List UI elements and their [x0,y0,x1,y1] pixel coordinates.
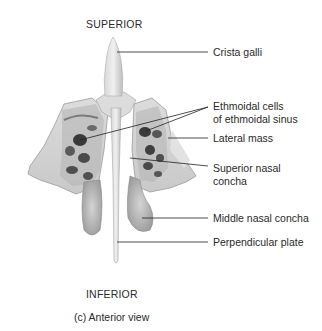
orientation-inferior: INFERIOR [86,288,138,300]
right-lateral-mass [132,98,196,192]
label-superior-nasal-concha-line2: concha [213,175,281,188]
label-perpendicular-plate: Perpendicular plate [213,236,303,249]
label-middle-nasal-concha: Middle nasal concha [213,212,309,225]
label-ethmoidal-cells-line1: Ethmoidal cells [213,100,298,113]
label-superior-nasal-concha-line1: Superior nasal [213,162,281,175]
left-middle-nasal-concha [82,180,102,235]
label-lateral-mass: Lateral mass [213,132,273,145]
label-ethmoidal-cells-line2: of ethmoidal sinus [213,113,298,126]
crista-galli-shape [104,37,123,96]
label-superior-nasal-concha: Superior nasal concha [213,162,281,188]
label-crista-galli: Crista galli [213,46,262,59]
figure-caption: (c) Anterior view [74,311,149,324]
label-ethmoidal-cells: Ethmoidal cells of ethmoidal sinus [213,100,298,126]
left-lateral-mass [28,98,108,194]
orientation-superior: SUPERIOR [86,18,142,30]
